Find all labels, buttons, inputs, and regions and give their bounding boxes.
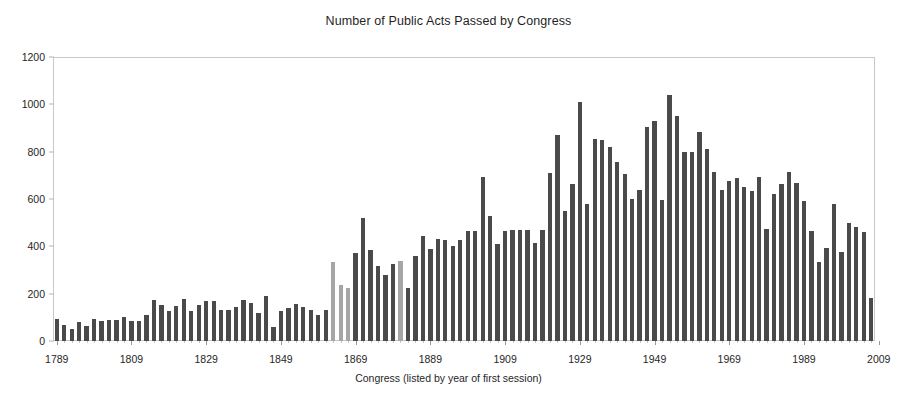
x-axis-minor-tick [640,341,641,343]
bar [772,194,776,341]
bar [757,177,761,341]
x-axis-minor-tick [565,341,566,343]
bar [593,139,597,341]
bar [832,204,836,341]
bar [443,240,447,341]
x-axis-minor-tick [139,341,140,343]
x-axis-minor-tick [811,341,812,343]
x-axis-tick-mark [655,341,656,345]
bar [854,227,858,341]
x-axis-minor-tick [550,341,551,343]
x-axis-minor-tick [670,341,671,343]
x-axis-minor-tick [109,341,110,343]
bar [675,116,679,341]
x-axis-tick-mark [505,341,506,345]
bar [391,264,395,341]
x-axis-minor-tick [587,341,588,343]
x-axis-minor-tick [662,341,663,343]
x-axis-minor-tick [513,341,514,343]
x-axis-minor-tick [400,341,401,343]
bar [750,191,754,341]
bar [712,172,716,341]
x-axis-tick-mark [580,341,581,345]
x-axis-minor-tick [184,341,185,343]
x-axis-minor-tick [841,341,842,343]
bar [324,310,328,341]
x-axis-minor-tick [371,341,372,343]
x-axis-minor-tick [221,341,222,343]
x-axis-minor-tick [94,341,95,343]
bar [137,321,141,341]
bar [99,321,103,341]
bar [787,172,791,341]
bar [690,152,694,341]
x-axis-minor-tick [303,341,304,343]
x-axis-minor-tick [871,341,872,343]
bar [742,187,746,341]
x-axis-minor-tick [311,341,312,343]
bar [167,311,171,341]
bar [264,296,268,341]
bar [212,301,216,341]
bar [204,301,208,341]
x-axis-minor-tick [154,341,155,343]
bar [294,304,298,341]
bar [159,305,163,341]
bar [406,288,410,341]
x-axis-minor-tick [864,341,865,343]
x-axis-minor-tick [288,341,289,343]
bar [794,183,798,341]
x-axis-tick-label: 1969 [718,353,741,365]
x-axis-minor-tick [386,341,387,343]
bar [174,306,178,341]
bar [197,305,201,341]
x-axis-minor-tick [707,341,708,343]
bar [623,174,627,341]
bar [182,299,186,341]
bar [62,325,66,341]
x-axis-minor-tick [408,341,409,343]
bar [697,132,701,341]
x-axis-minor-tick [722,341,723,343]
bar [234,307,238,341]
x-axis-minor-tick [684,341,685,343]
bar [144,315,148,341]
x-axis-tick-mark [430,341,431,345]
bar [458,240,462,341]
x-axis-minor-tick [146,341,147,343]
bar [92,319,96,341]
bar [398,261,402,341]
x-axis-minor-tick [169,341,170,343]
x-axis-minor-tick [333,341,334,343]
bar [383,275,387,341]
bar [615,162,619,341]
x-axis-label: Congress (listed by year of first sessio… [0,372,897,384]
x-axis-minor-tick [393,341,394,343]
bar [548,173,552,341]
bar [660,200,664,341]
x-axis-minor-tick [789,341,790,343]
x-axis-minor-tick [826,341,827,343]
bar [436,239,440,341]
x-axis-minor-tick [475,341,476,343]
bar [331,262,335,341]
bar-series [0,0,897,395]
bar [466,231,470,341]
bar [824,248,828,341]
bar [667,95,671,341]
x-axis-minor-tick [737,341,738,343]
x-axis-minor-tick [423,341,424,343]
bar [488,216,492,341]
x-axis-minor-tick [535,341,536,343]
bar [84,326,88,341]
bar [421,236,425,341]
bar [600,140,604,341]
x-axis-minor-tick [677,341,678,343]
bar [428,249,432,341]
x-axis-minor-tick [632,341,633,343]
x-axis-tick-mark [131,341,132,345]
bar [368,250,372,341]
bar [226,310,230,341]
bar [279,311,283,341]
bar [802,201,806,341]
